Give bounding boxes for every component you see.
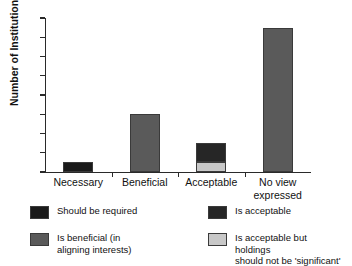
x-axis-label-3: No viewexpressed bbox=[245, 176, 312, 201]
x-axis-label-line: expressed bbox=[245, 189, 312, 202]
legend-swatch bbox=[208, 206, 227, 219]
bar-group bbox=[45, 18, 311, 172]
x-axis-label-2: Acceptable bbox=[178, 176, 245, 189]
bar-beneficial bbox=[130, 114, 160, 172]
bar-no-view-expressed bbox=[263, 28, 293, 172]
x-axis-label-line: Necessary bbox=[45, 176, 112, 189]
x-axis-label-line: Acceptable bbox=[178, 176, 245, 189]
legend-label: Is beneficial (in aligning interests) bbox=[57, 232, 131, 255]
x-axis-label-line: Beneficial bbox=[112, 176, 179, 189]
legend-item: Should be required bbox=[30, 205, 137, 219]
bar-segment bbox=[130, 114, 160, 172]
bar-segment bbox=[63, 162, 93, 172]
legend-label: Is acceptable bbox=[235, 205, 291, 217]
x-axis-label-line: No view bbox=[245, 176, 312, 189]
legend-label: Should be required bbox=[57, 205, 137, 217]
bar-segment bbox=[196, 143, 226, 162]
bar-acceptable bbox=[196, 143, 226, 172]
bar-chart: Number of Institutions 0246810121416 Nec… bbox=[0, 0, 352, 266]
x-axis-label-1: Beneficial bbox=[112, 176, 179, 189]
x-axis-label-0: Necessary bbox=[45, 176, 112, 189]
bar-segment bbox=[196, 162, 226, 172]
legend-item: Is acceptable bbox=[208, 205, 291, 219]
chart-legend: Should be requiredIs acceptableIs benefi… bbox=[30, 205, 342, 263]
legend-item: Is acceptable but holdings should not be… bbox=[208, 232, 342, 266]
legend-swatch bbox=[30, 233, 49, 246]
legend-item: Is beneficial (in aligning interests) bbox=[30, 232, 131, 255]
legend-swatch bbox=[30, 206, 49, 219]
y-axis-title: Number of Institutions bbox=[8, 0, 20, 130]
bar-segment bbox=[263, 28, 293, 172]
legend-label: Is acceptable but holdings should not be… bbox=[235, 232, 342, 266]
bar-necessary bbox=[63, 162, 93, 172]
legend-swatch bbox=[208, 233, 227, 246]
